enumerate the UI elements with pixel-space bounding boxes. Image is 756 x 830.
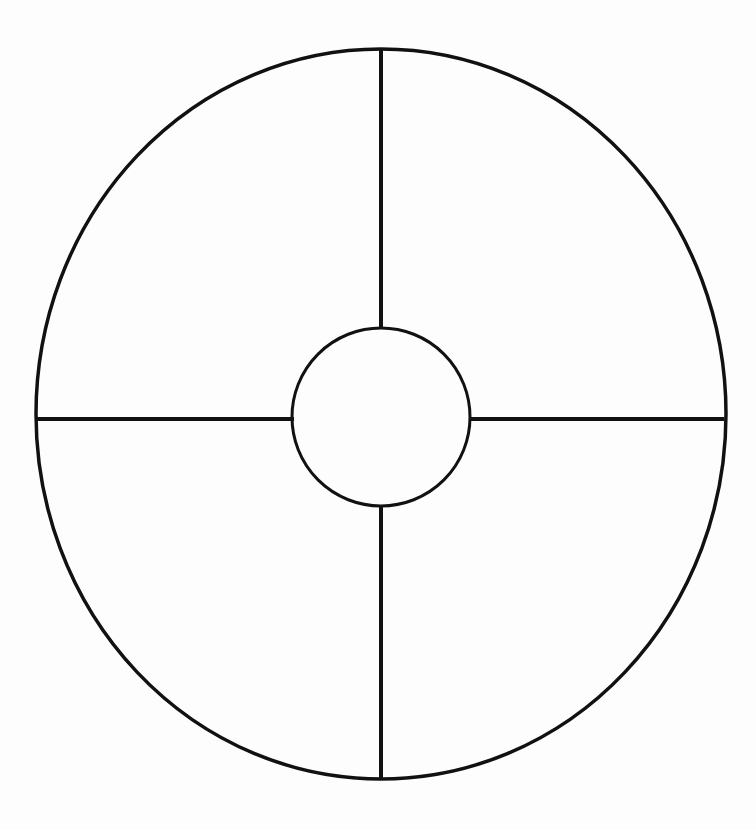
quartered-wheel-diagram (0, 0, 756, 830)
diagram-page (0, 0, 756, 830)
hub-interior-region[interactable] (295, 331, 467, 503)
